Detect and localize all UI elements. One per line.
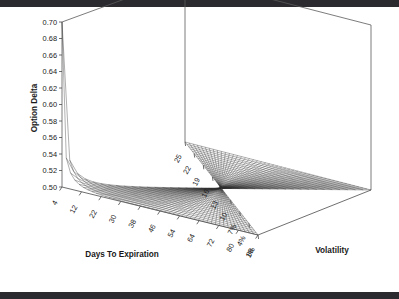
x-tick-label: 4 bbox=[50, 199, 60, 207]
x-tick-label: 64 bbox=[185, 232, 197, 243]
z-axis-tick-labels: 0.700.680.660.640.620.600.580.560.540.52… bbox=[43, 18, 62, 192]
z-tick-label: 0.60 bbox=[43, 100, 57, 109]
x-tick-label: 22 bbox=[87, 208, 99, 219]
z-tick-label: 0.54 bbox=[43, 150, 57, 159]
y-tick-label: 25 bbox=[172, 153, 184, 164]
surface-plot-canvas: 0.700.680.660.640.620.600.580.560.540.52… bbox=[0, 0, 399, 299]
y-tick-label: 22 bbox=[181, 164, 193, 175]
z-tick-label: 0.58 bbox=[43, 117, 57, 126]
y-axis-title: Volatility bbox=[315, 246, 349, 255]
x-tick-label: 72 bbox=[205, 237, 217, 248]
z-tick-label: 0.68 bbox=[43, 34, 57, 43]
y-tick-label: 1% bbox=[244, 245, 257, 259]
surface-plot-figure: 0.700.680.660.640.620.600.580.560.540.52… bbox=[0, 0, 399, 299]
x-tick-label: 30 bbox=[107, 213, 119, 224]
x-tick-label: 12 bbox=[68, 204, 80, 215]
y-tick-label: 19 bbox=[190, 176, 202, 187]
z-tick-label: 0.70 bbox=[43, 18, 57, 27]
plot-box-front-edges bbox=[62, 187, 371, 235]
x-tick-label: 54 bbox=[166, 228, 178, 239]
z-tick-label: 0.52 bbox=[43, 166, 57, 175]
x-tick-label: 46 bbox=[146, 223, 158, 234]
x-axis-title: Days To Expiration bbox=[85, 250, 159, 259]
z-tick-label: 0.56 bbox=[43, 133, 57, 142]
x-tick-label: 38 bbox=[126, 218, 138, 229]
y-tick-label: 4% bbox=[235, 234, 248, 248]
x-axis-tick-labels: 412223038465464728088 bbox=[50, 187, 258, 258]
z-tick-label: 0.50 bbox=[43, 183, 57, 192]
z-axis-title: Option Delta bbox=[30, 83, 39, 132]
z-tick-label: 0.62 bbox=[43, 84, 57, 93]
z-tick-label: 0.66 bbox=[43, 51, 57, 60]
z-tick-label: 0.64 bbox=[43, 67, 57, 76]
